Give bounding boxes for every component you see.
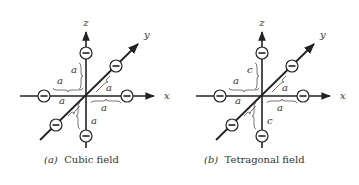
y-axis-label: y [319, 29, 326, 40]
charge-x-pos [297, 90, 309, 102]
svg-text:a: a [233, 75, 239, 86]
charge-z-up [256, 47, 268, 59]
charge-x-neg [38, 90, 50, 102]
charge-z-down [80, 130, 92, 142]
charge-y-pos [286, 60, 298, 72]
x-axis-label: x [340, 90, 346, 101]
caption-text: Tetragonal field [225, 154, 305, 165]
svg-text:a: a [106, 82, 112, 93]
charge-y-pos [110, 60, 122, 72]
svg-text:a: a [282, 82, 288, 93]
svg-text:a: a [57, 75, 63, 86]
x-axis-label: x [164, 90, 170, 101]
charge-x-neg [214, 90, 226, 102]
svg-text:a: a [71, 64, 77, 75]
charge-y-neg [226, 119, 238, 131]
caption-tag: (b) [204, 154, 218, 165]
distance-labels: c a a a a c [233, 64, 288, 126]
caption-cubic: (a) Cubic field [44, 154, 119, 165]
z-axis-label: z [82, 17, 89, 28]
caption-tetragonal: (b) Tetragonal field [204, 154, 305, 165]
distance-labels: a a a a a a [57, 64, 112, 126]
charge-y-neg [50, 119, 62, 131]
svg-text:c: c [267, 115, 273, 126]
svg-text:c: c [247, 64, 253, 75]
charge-x-pos [121, 90, 133, 102]
y-axis-label: y [143, 29, 150, 40]
svg-text:a: a [59, 95, 65, 106]
svg-text:a: a [277, 102, 283, 113]
z-axis-label: z [258, 17, 265, 28]
charge-z-up [80, 47, 92, 59]
charge-z-down [256, 130, 268, 142]
svg-text:a: a [91, 115, 97, 126]
svg-text:a: a [235, 95, 241, 106]
svg-text:a: a [101, 102, 107, 113]
caption-tag: (a) [44, 154, 58, 165]
tetragonal-field-diagram: z x y c a a a a c [196, 17, 346, 148]
caption-text: Cubic field [64, 154, 119, 165]
cubic-field-diagram: z x y a a a a a a [20, 17, 170, 148]
